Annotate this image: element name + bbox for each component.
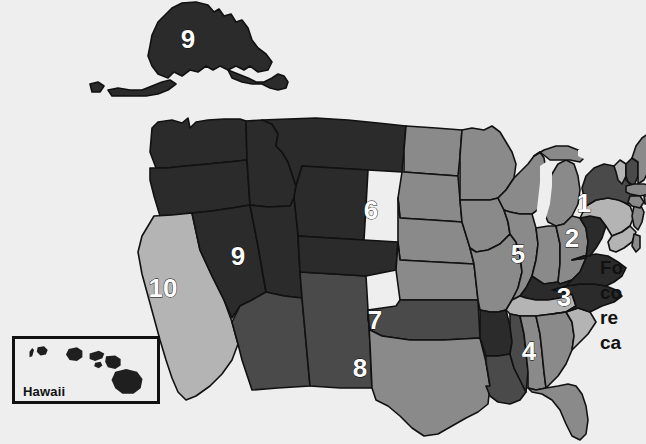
hawaii-inset: Hawaii (12, 336, 160, 404)
caption-line-4: ca (600, 330, 646, 355)
caption-line-2: co (600, 280, 646, 305)
hawaii-label: Hawaii (23, 384, 65, 399)
state-label-NY: 1 (577, 188, 591, 218)
state-label-OK: 7 (368, 305, 382, 335)
state-AK: 9 (90, 2, 288, 96)
state-DE (632, 234, 640, 252)
caption-line-3: re (600, 305, 646, 330)
state-IN (532, 226, 560, 284)
state-CO (298, 236, 398, 276)
state-label-GA: 4 (522, 336, 537, 366)
state-label-PA: 2 (565, 223, 579, 253)
state-FL (528, 384, 588, 440)
state-AZ (232, 292, 310, 390)
state-label-AK: 9 (181, 24, 195, 54)
state-AR (480, 310, 512, 356)
caption-line-1: Fo (600, 255, 646, 280)
state-WA (150, 118, 247, 168)
state-label-TX: 8 (353, 353, 367, 383)
state-OK (368, 300, 480, 340)
state-SD (398, 172, 462, 222)
state-label-CA: 10 (149, 273, 178, 303)
us-choropleth-map: 9 (0, 0, 646, 444)
state-ND (404, 126, 462, 176)
state-MA (626, 184, 646, 196)
state-label-NC: 3 (557, 282, 571, 312)
state-label-OH: 5 (511, 239, 525, 269)
map-caption: Fo co re ca (600, 255, 646, 355)
state-label-SD: 6 (364, 195, 378, 225)
state-label-NV: 9 (231, 241, 245, 271)
state-NH (626, 158, 638, 186)
state-WY (294, 166, 368, 240)
